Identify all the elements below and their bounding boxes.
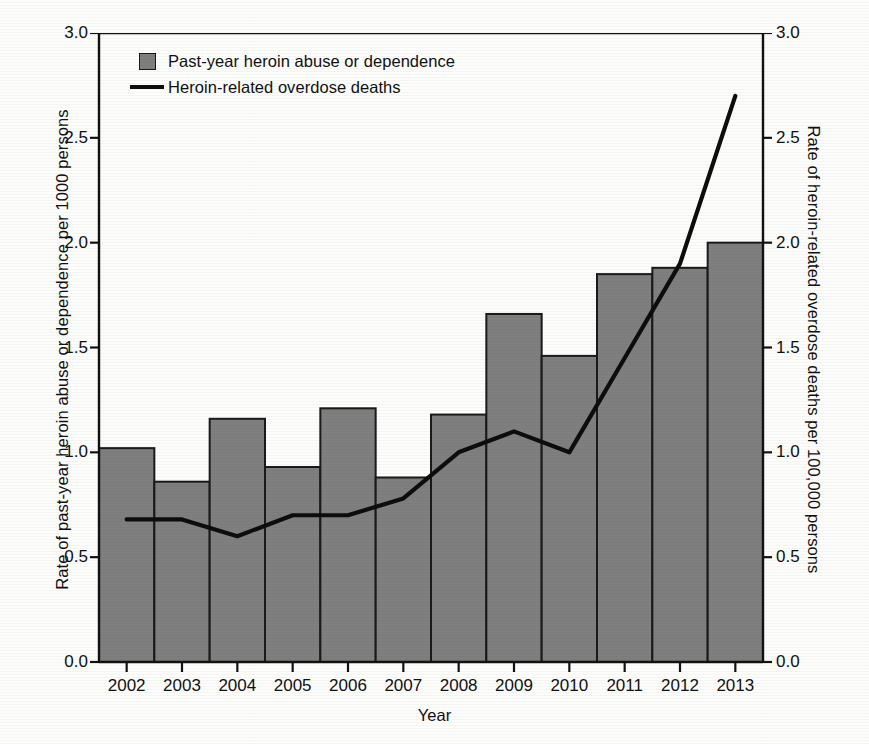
bar-2003: [154, 482, 209, 662]
chart-legend: Past-year heroin abuse or dependence Her…: [126, 48, 456, 100]
plot-area: [87, 33, 751, 662]
bar-series: [99, 243, 763, 662]
x-tick-label-2007: 2007: [373, 676, 433, 696]
chart-figure: Rate of past-year heroin abuse or depend…: [0, 0, 869, 744]
bar-2006: [320, 408, 375, 662]
bar-2002: [99, 448, 154, 662]
bar-2010: [542, 356, 597, 662]
bar-2011: [597, 274, 652, 662]
bar-swatch-icon: [126, 53, 168, 70]
x-tick-label-2003: 2003: [152, 676, 212, 696]
legend-label-line: Heroin-related overdose deaths: [168, 78, 401, 97]
x-tick-label-2002: 2002: [97, 676, 157, 696]
line-swatch-icon: [126, 85, 168, 88]
x-tick-label-2012: 2012: [650, 676, 710, 696]
x-tick-label-2005: 2005: [263, 676, 323, 696]
x-tick-label-2008: 2008: [429, 676, 489, 696]
x-tick-label-2004: 2004: [207, 676, 267, 696]
bar-2009: [486, 314, 541, 662]
bar-2013: [708, 243, 763, 662]
x-tick-label-2010: 2010: [539, 676, 599, 696]
x-tick-label-2009: 2009: [484, 676, 544, 696]
x-tick-label-2011: 2011: [595, 676, 655, 696]
x-tick-label-2013: 2013: [705, 676, 765, 696]
bar-2012: [652, 268, 707, 662]
legend-label-bar: Past-year heroin abuse or dependence: [168, 52, 455, 71]
legend-item-bar: Past-year heroin abuse or dependence: [126, 48, 456, 74]
bar-2005: [265, 467, 320, 662]
x-tick-label-2006: 2006: [318, 676, 378, 696]
bar-2004: [210, 419, 265, 662]
legend-item-line: Heroin-related overdose deaths: [126, 74, 456, 100]
chart-canvas: [87, 33, 777, 676]
